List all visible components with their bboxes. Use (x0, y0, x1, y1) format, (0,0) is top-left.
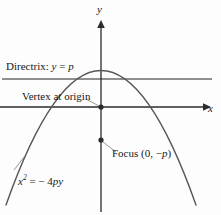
directrix-label-prefix: Directrix: (6, 60, 52, 72)
vertex-label: Vertex at origin (22, 91, 90, 102)
directrix-label: Directrix: y = p (6, 61, 74, 72)
y-axis-arrowhead (97, 20, 105, 28)
directrix-label-var-p: p (68, 60, 74, 72)
parabola-figure: y x Directrix: y = p Vertex at origin Fo… (0, 0, 221, 215)
directrix-label-equals: = (56, 60, 68, 72)
focus-label: Focus (0, −p) (112, 148, 171, 159)
equation-equals: = − 4 (27, 175, 53, 187)
focus-label-suffix: ) (167, 147, 171, 159)
x-axis-label: x (208, 103, 213, 114)
vertex-point (98, 104, 103, 109)
y-axis-label: y (97, 4, 102, 15)
focus-point (98, 137, 103, 142)
equation-label: x2 = − 4py (18, 174, 63, 187)
focus-label-prefix: Focus (0, − (112, 147, 162, 159)
equation-var-py: py (53, 175, 63, 187)
